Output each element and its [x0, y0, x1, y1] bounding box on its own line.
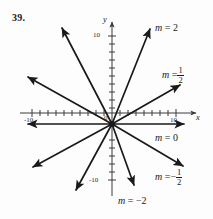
slope-label-one-half-m: m	[162, 69, 169, 80]
line-slope-neg-2	[62, 28, 134, 185]
slope-label-neg-one-half-m: m	[155, 171, 162, 182]
fraction-one-half: 12	[177, 66, 183, 84]
slope-label-0-m: m	[155, 132, 162, 143]
slope-label-0-equals: =	[165, 132, 171, 143]
fraction-one-half-denominator: 2	[177, 76, 183, 85]
slope-label-neg-2: m = −2	[118, 196, 147, 206]
slope-label-2-value: 2	[173, 22, 178, 33]
slope-label-neg-2-value: −2	[136, 195, 147, 206]
slope-label-neg-2-m: m	[118, 195, 125, 206]
x-tick-10: 10	[170, 116, 177, 124]
slope-label-2: m = 2	[155, 23, 178, 33]
slope-label-2-equals: =	[165, 22, 171, 33]
y-axis-name: y	[103, 14, 107, 24]
fraction-neg-one-half-denominator: 2	[176, 178, 182, 187]
slope-label-neg-2-equals: =	[128, 195, 134, 206]
fraction-neg-one-half: 12	[176, 168, 182, 186]
slope-label-0-value: 0	[173, 132, 178, 143]
x-axis-name: x	[196, 112, 200, 122]
slope-label-one-half: m =12	[162, 66, 184, 84]
slope-label-neg-one-half: m =−12	[155, 168, 182, 186]
origin-label: 0	[104, 114, 108, 122]
line-slope-one-half	[33, 85, 180, 167]
y-axis	[108, 22, 116, 196]
x-tick-neg-10: -10	[24, 116, 33, 124]
slope-label-2-m: m	[155, 22, 162, 33]
slope-label-0: m = 0	[155, 133, 178, 143]
figure-container: 39.	[0, 0, 213, 219]
y-tick-10: 10	[93, 31, 100, 39]
y-tick-neg-10: -10	[89, 176, 98, 184]
origin-intersection-point	[109, 121, 115, 127]
